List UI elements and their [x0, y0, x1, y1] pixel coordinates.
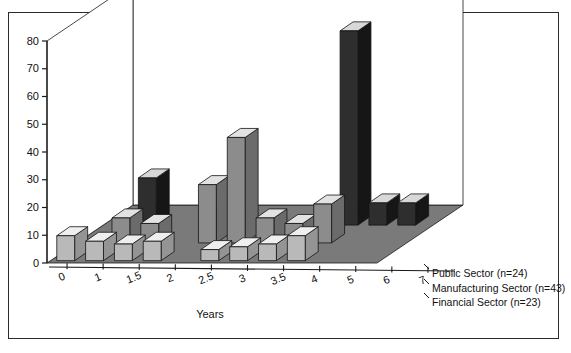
bar-front-face[interactable] — [369, 203, 387, 225]
x-axis-line — [49, 267, 455, 271]
x-axis-tick-label: 2.5 — [197, 269, 216, 286]
bar-front-face[interactable] — [57, 236, 75, 261]
bar-side-face[interactable] — [358, 22, 371, 225]
bar[interactable]: Manufacturing Sector (n=43) — 2.5: 21 — [198, 176, 229, 243]
x-axis-tick-label: 1 — [93, 270, 103, 283]
y-axis-tick-label: 30 — [27, 173, 39, 185]
bar-front-face[interactable] — [201, 250, 219, 261]
x-axis-tick-label: 7 — [417, 273, 427, 286]
y-axis-tick-label: 70 — [27, 62, 39, 74]
x-axis-tick-label: 4 — [309, 272, 319, 285]
legend-label-2: Manufacturing Sector (n=43) — [432, 282, 565, 294]
bar-front-face[interactable] — [287, 236, 305, 261]
chart-back-wall — [133, 0, 463, 205]
x-axis-tick-label: 1.5 — [124, 269, 143, 286]
y-axis-tick-label: 10 — [27, 229, 39, 241]
legend-leader — [424, 293, 429, 298]
x-axis-tick-label: 3 — [237, 272, 247, 285]
y-axis-tick-label: 80 — [27, 35, 39, 47]
bar-front-face[interactable] — [230, 247, 248, 261]
x-axis-tick-label: 2 — [165, 271, 175, 284]
bar-front-face[interactable] — [114, 244, 132, 261]
x-axis-tick-label: 0 — [56, 270, 66, 283]
y-axis-tick-label: 20 — [27, 201, 39, 213]
x-axis-title: Years — [196, 308, 224, 320]
legend-leader — [424, 264, 429, 269]
y-axis-tick-label: 50 — [27, 118, 39, 130]
bar-chart-3d: 01020304050607080Public Sector (n=24) — … — [0, 0, 571, 353]
bar-front-face[interactable] — [398, 203, 416, 225]
y-axis-tick-label: 0 — [33, 257, 39, 269]
x-axis-tick-label: 3.5 — [269, 270, 288, 287]
y-axis-tick-label: 40 — [27, 146, 39, 158]
x-axis-tick-label: 6 — [381, 273, 391, 286]
bar-front-face[interactable] — [198, 185, 216, 243]
y-axis-tick-label: 60 — [27, 90, 39, 102]
chart-stage: 01020304050607080Public Sector (n=24) — … — [0, 0, 571, 353]
bar-front-face[interactable] — [143, 241, 161, 260]
bar-front-face[interactable] — [259, 244, 277, 261]
bar-front-face[interactable] — [227, 137, 245, 242]
legend: Public Sector (n=24)Manufacturing Sector… — [432, 267, 565, 308]
y-axis: 01020304050607080 — [27, 35, 47, 269]
legend-label-3: Financial Sector (n=23) — [432, 296, 541, 308]
legend-label-1: Public Sector (n=24) — [432, 267, 527, 279]
bar[interactable]: Manufacturing Sector (n=43) — 3: 38 — [227, 128, 258, 242]
x-axis: 011.522.533.54567 — [49, 263, 455, 287]
x-axis-tick-label: 5 — [345, 273, 355, 286]
bar-front-face[interactable] — [86, 241, 104, 260]
